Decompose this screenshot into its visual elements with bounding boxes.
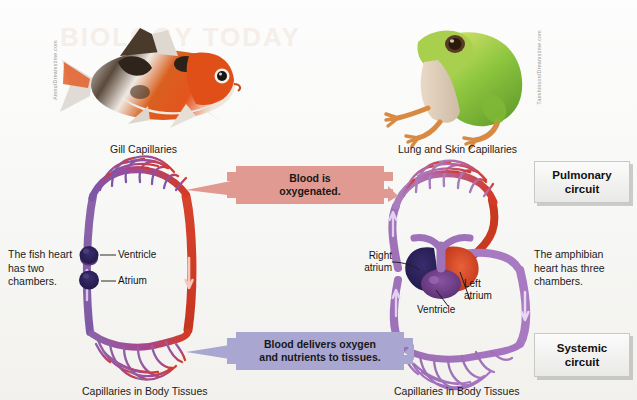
ribbon-tab-tl (227, 338, 236, 347)
fish-heart-note: The fish heart has two chambers. (8, 248, 80, 289)
oxygenated-callout-line2: oxygenated. (279, 185, 340, 197)
fish-heart-note-line1: The fish heart (8, 248, 80, 262)
delivery-callout-line1: Blood delivers oxygen (264, 338, 376, 350)
amphibian-heart-note-line3: chambers. (534, 275, 630, 289)
label-right-atrium-line1: Right (358, 250, 392, 262)
caption-lung-skin-capillaries: Lung and Skin Capillaries (398, 143, 517, 155)
amphibian-heart-note-line1: The amphibian (534, 248, 630, 262)
frog-photo (386, 30, 522, 148)
ribbon-tab-tr (384, 172, 393, 181)
oxygenated-callout-text: Blood is oxygenated. (270, 172, 349, 198)
ribbon-tab-bl (227, 355, 236, 364)
frog-photo-credit: Taeshinson/Dreamstime.com (536, 30, 542, 104)
label-fish-atrium: Atrium (118, 275, 147, 287)
systemic-circuit-line1: Systemic (557, 342, 608, 354)
delivery-callout-text: Blood delivers oxygen and nutrients to t… (250, 338, 389, 364)
caption-gill-capillaries: Gill Capillaries (110, 143, 177, 155)
ribbon-tab-tl (227, 172, 236, 181)
pulmonary-circuit-box: Pulmonary circuit (534, 161, 630, 203)
figure-canvas: BIOLOGY TODAY (0, 0, 637, 400)
label-right-atrium-line2: atrium (358, 262, 392, 274)
pulmonary-circuit-line1: Pulmonary (552, 169, 611, 181)
fish-heart-note-line3: chambers. (8, 275, 80, 289)
pulmonary-circuit-line2: circuit (565, 183, 600, 195)
label-left-atrium-line1: Left (464, 278, 492, 290)
amphibian-body-capillary-bed (400, 344, 520, 389)
amphibian-heart-note-line2: heart has three (534, 262, 630, 276)
pulmonary-circuit-text: Pulmonary circuit (552, 168, 611, 196)
amphibian-heart-note: The amphibian heart has three chambers. (534, 248, 630, 289)
ribbon-tab-tr (404, 338, 413, 347)
oxygenated-callout: Blood is oxygenated. (236, 166, 384, 204)
label-left-atrium: Left atrium (464, 278, 492, 302)
fish-photo-credit: Amnu/Dreamstime.com (52, 40, 58, 100)
delivery-callout: Blood delivers oxygen and nutrients to t… (236, 332, 404, 370)
ribbon-tab-br (404, 355, 413, 364)
label-ventricle: Ventricle (417, 304, 455, 316)
label-left-atrium-line2: atrium (464, 290, 492, 302)
caption-body-capillaries-left: Capillaries in Body Tissues (82, 385, 207, 397)
label-right-atrium: Right atrium (358, 250, 392, 274)
oxygenated-callout-line1: Blood is (289, 172, 330, 184)
gill-capillary-bed (92, 157, 186, 198)
fish-heart-note-line2: has two (8, 262, 80, 276)
lung-skin-capillary-bed (396, 161, 494, 206)
ribbon-tab-bl (227, 189, 236, 198)
fish-circulation (79, 157, 193, 380)
caption-body-capillaries-right: Capillaries in Body Tissues (394, 385, 519, 397)
label-fish-ventricle: Ventricle (118, 249, 156, 261)
fish-photo (60, 28, 240, 128)
systemic-circuit-line2: circuit (565, 356, 600, 368)
fish-body-capillary-bed (92, 332, 188, 380)
systemic-circuit-box: Systemic circuit (534, 333, 630, 377)
ribbon-tab-br (384, 189, 393, 198)
systemic-circuit-text: Systemic circuit (557, 341, 608, 369)
delivery-callout-line2: and nutrients to tissues. (259, 351, 380, 363)
